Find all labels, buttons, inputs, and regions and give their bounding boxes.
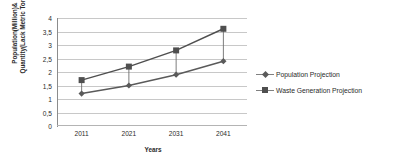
y-axis-tick-label: 3,5 — [0, 28, 52, 35]
chart-legend: Population ProjectionWaste Generation Pr… — [256, 66, 403, 98]
legend-item[interactable]: Waste Generation Projection — [256, 82, 403, 98]
legend-diamond-marker-icon — [256, 69, 274, 79]
x-axis-tick-label: 2021 — [109, 130, 149, 137]
data-point-marker — [79, 91, 85, 97]
data-point-marker — [126, 64, 132, 70]
y-axis-tick-label: 4 — [0, 15, 52, 22]
data-point-marker — [126, 82, 132, 88]
x-axis-tick-label: 2041 — [203, 130, 243, 137]
y-axis-tick-label: 2,5 — [0, 55, 52, 62]
legend-label: Waste Generation Projection — [276, 87, 362, 94]
data-point-marker — [79, 77, 85, 83]
y-axis-tick-label: 1,5 — [0, 82, 52, 89]
data-point-marker — [220, 26, 226, 32]
series-line — [82, 61, 224, 93]
series-line — [82, 29, 224, 80]
chart-container: Population(Million)& Quantity(Lack Metri… — [0, 0, 403, 165]
y-axis-tick-label: 1 — [0, 96, 52, 103]
y-axis-tick-label: 0,5 — [0, 109, 52, 116]
legend-item[interactable]: Population Projection — [256, 66, 403, 82]
x-axis-tick-label: 2031 — [156, 130, 196, 137]
legend-label: Population Projection — [276, 71, 340, 78]
legend-square-marker-icon — [256, 85, 274, 95]
plot-area — [58, 18, 247, 126]
data-point-marker — [173, 47, 179, 53]
x-axis-title: Years — [58, 146, 248, 153]
series-plot — [58, 18, 247, 126]
x-axis-tick-label: 2011 — [62, 130, 102, 137]
data-point-marker — [220, 58, 226, 64]
y-axis-tick-label: 3 — [0, 42, 52, 49]
y-axis-tick-label: 0 — [0, 123, 52, 130]
y-axis-tick-label: 2 — [0, 69, 52, 76]
data-point-marker — [173, 72, 179, 78]
